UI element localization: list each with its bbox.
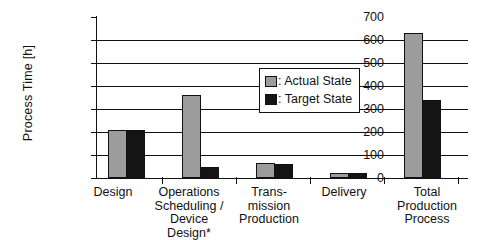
x-axis-tick-5	[458, 177, 459, 184]
x-category-line: Operations	[147, 186, 231, 200]
x-axis-tick-3	[310, 177, 311, 184]
y-axis-tick-500	[91, 63, 96, 64]
bar-actual-total	[404, 33, 423, 178]
x-category-line: mission	[228, 200, 310, 214]
x-category-line: Production	[384, 200, 470, 214]
x-axis-tick-1	[162, 177, 163, 184]
bar-actual-design	[108, 130, 127, 178]
y-axis-tick-200	[91, 132, 96, 133]
gridline-baseline-0	[96, 178, 468, 179]
legend: : Actual State : Target State	[259, 68, 360, 113]
y-axis-tick-600	[91, 40, 96, 41]
bar-target-design	[126, 130, 145, 178]
y-axis-title: Process Time [h]	[21, 13, 35, 173]
legend-label-actual: : Actual State	[278, 75, 352, 88]
legend-item-actual: : Actual State	[265, 72, 352, 90]
x-category-line: Design	[76, 186, 150, 200]
bar-target-operations	[200, 167, 219, 179]
x-category-line: Scheduling /	[147, 200, 231, 214]
x-category-label-operations: Operations Scheduling / Device Design*	[147, 186, 231, 240]
y-axis-tick-0	[91, 178, 96, 179]
x-axis-tick-2	[236, 177, 237, 184]
x-category-label-delivery: Delivery	[306, 186, 382, 200]
y-axis-tick-400	[91, 86, 96, 87]
legend-swatch-actual-icon	[265, 76, 277, 87]
bar-target-delivery	[348, 173, 367, 178]
legend-item-target: : Target State	[265, 90, 352, 108]
x-category-line: Delivery	[306, 186, 382, 200]
x-category-line: Process	[384, 213, 470, 227]
y-axis-tick-700	[91, 17, 96, 18]
x-category-line: Trans-	[228, 186, 310, 200]
y-axis-tick-100	[91, 155, 96, 156]
bar-actual-operations	[182, 95, 201, 178]
x-category-label-total: Total Production Process	[384, 186, 470, 227]
bar-actual-delivery	[330, 173, 349, 178]
x-axis-tick-4	[384, 177, 385, 184]
x-category-line: Device	[147, 213, 231, 227]
x-category-label-design: Design	[76, 186, 150, 200]
bar-target-transmission	[274, 164, 293, 178]
bar-actual-transmission	[256, 163, 275, 178]
bar-chart: Process Time [h] 700 600 500 400 300 200…	[0, 0, 486, 240]
bar-target-total	[422, 100, 441, 178]
x-category-label-transmission: Trans- mission Production	[228, 186, 310, 227]
y-axis-tick-300	[91, 109, 96, 110]
x-category-line: Total	[384, 186, 470, 200]
x-category-line: Design*	[147, 227, 231, 240]
legend-swatch-target-icon	[265, 94, 277, 105]
legend-label-target: : Target State	[278, 93, 352, 106]
x-category-line: Production	[228, 213, 310, 227]
